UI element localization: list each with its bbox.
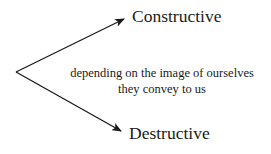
- middle-note-line-2: they convey to us: [56, 81, 268, 97]
- destructive-label: Destructive: [129, 125, 210, 143]
- middle-note: depending on the image of ourselves they…: [56, 65, 268, 97]
- middle-note-line-1: depending on the image of ourselves: [56, 65, 268, 81]
- branching-diagram: Constructive depending on the image of o…: [0, 0, 271, 154]
- constructive-label: Constructive: [132, 8, 221, 26]
